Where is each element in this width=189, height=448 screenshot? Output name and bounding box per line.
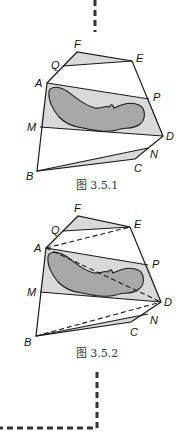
figure-2-label-C: C: [130, 326, 138, 338]
figure-2-label-F: F: [74, 202, 82, 214]
figure-1-label-A: A: [34, 77, 42, 89]
figure-1-label-M: M: [27, 121, 37, 133]
figure-1-label-P: P: [153, 91, 161, 103]
figure-1-label-F: F: [74, 38, 82, 50]
figure-1-label-N: N: [150, 148, 158, 160]
figure-1-label-Q: Q: [51, 59, 60, 71]
figure-1-label-C: C: [134, 162, 142, 174]
figure-1-label-B: B: [26, 170, 33, 182]
figure-caption-2: 图 3.5.2: [76, 344, 119, 360]
figure-1-label-E: E: [136, 52, 144, 64]
connector-dash-bottom: [0, 372, 97, 428]
figure-1-label-D: D: [166, 130, 174, 142]
figure-2-label-M: M: [27, 286, 37, 298]
figure-2-label-P: P: [152, 258, 160, 270]
figure-2-label-B: B: [24, 336, 31, 348]
figure-2-label-E: E: [134, 218, 142, 230]
figure-2-dashed-BD: [36, 302, 161, 336]
figure-2-label-D: D: [164, 296, 172, 308]
figure-2-label-N: N: [150, 314, 158, 326]
figure-2-label-Q: Q: [51, 224, 60, 236]
figure-2-label-A: A: [33, 242, 41, 254]
figure-caption-1: 图 3.5.1: [76, 176, 119, 192]
geometry-diagram: FQEAPMDNCBFQEAPMDNCB: [0, 0, 189, 448]
